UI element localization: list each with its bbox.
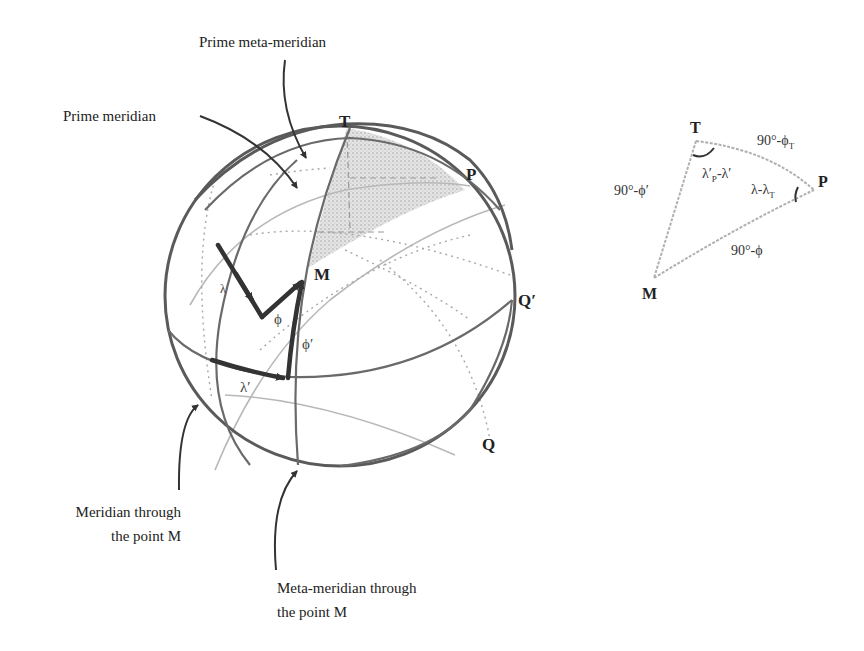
phi-symbol: ϕ xyxy=(274,311,282,327)
lambda-prime-symbol: λ′ xyxy=(240,379,251,395)
point-q-label: Q xyxy=(482,435,495,454)
angle-p-arc xyxy=(795,187,798,202)
point-m-label: M xyxy=(314,265,330,284)
angle-t-label: λ′P-λ′ xyxy=(702,166,731,184)
angle-t-arc xyxy=(693,148,714,156)
meta-meridian-through-m-callout-line2: the point M xyxy=(277,604,347,620)
equator-arc xyxy=(168,300,512,377)
triangle-vertex-t: T xyxy=(690,119,701,136)
side-tp-label: 90°-ϕT xyxy=(757,133,795,151)
meridian-through-m-callout-line1: Meridian through xyxy=(76,504,182,520)
point-q-prime-label: Q′ xyxy=(518,291,536,310)
meta-meridian-through-m-leader xyxy=(275,471,297,570)
meridian-through-m-callout-line2: the point M xyxy=(111,528,181,544)
prime-meta-meridian-callout: Prime meta-meridian xyxy=(199,34,327,50)
angle-p-label: λ-λT xyxy=(751,182,775,200)
side-tm-label: 90°-ϕ′ xyxy=(614,183,649,198)
meta-meridian-through-m-callout-line1: Meta-meridian through xyxy=(277,580,417,596)
triangle-vertex-m: M xyxy=(642,285,657,302)
meridian-through-m-leader xyxy=(179,405,198,490)
triangle-vertex-p: P xyxy=(818,173,828,190)
side-pm xyxy=(654,190,814,278)
prime-meridian-callout: Prime meridian xyxy=(63,108,156,124)
shaded-triangle-region xyxy=(308,128,465,268)
prime-meta-meridian-leader xyxy=(284,60,306,158)
spherical-diagram: T P M Q′ Q ϕ ϕ′ λ λ′ Prime meta-meridian… xyxy=(0,0,864,651)
side-pm-label: 90°-ϕ xyxy=(731,243,763,258)
phi-prime-symbol: ϕ′ xyxy=(302,336,313,352)
lambda-symbol: λ xyxy=(220,282,226,296)
point-p-label: P xyxy=(466,165,476,184)
vectors xyxy=(212,245,302,378)
point-t-label: T xyxy=(339,112,351,131)
